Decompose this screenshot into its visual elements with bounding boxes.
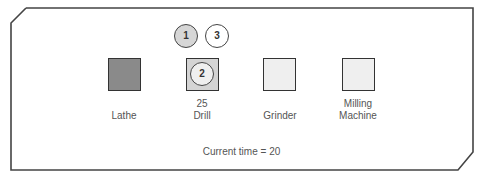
- machine-grinder-label: Grinder: [235, 110, 325, 122]
- job-3-circle: 3: [205, 24, 229, 48]
- machine-lathe: [108, 58, 141, 91]
- machine-milling-label-line1: Milling: [313, 98, 403, 110]
- machine-grinder: [263, 58, 296, 91]
- job-2-circle: 2: [190, 62, 214, 86]
- machine-drill-label: Drill: [157, 110, 247, 122]
- machine-milling-label-line2: Machine: [313, 110, 403, 122]
- machine-drill-queue-count: 25: [157, 98, 247, 110]
- machine-milling: [342, 58, 375, 91]
- frame-border: [0, 0, 483, 186]
- current-time-status: Current time = 20: [0, 146, 483, 157]
- machine-lathe-label: Lathe: [79, 110, 169, 122]
- job-1-circle: 1: [174, 24, 198, 48]
- machine-drill: 2: [186, 58, 219, 91]
